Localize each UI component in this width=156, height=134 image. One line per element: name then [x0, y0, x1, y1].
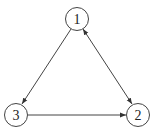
node-label: 1 [74, 12, 81, 27]
node-label: 3 [13, 108, 20, 123]
edge-1-to-2 [83, 29, 132, 104]
node-2[interactable]: 2 [127, 104, 150, 127]
node-label: 2 [135, 108, 142, 123]
graph-canvas: 1 2 3 [0, 0, 156, 134]
node-3[interactable]: 3 [5, 104, 28, 127]
edge-1-to-3 [22, 29, 71, 104]
node-1[interactable]: 1 [66, 8, 89, 31]
